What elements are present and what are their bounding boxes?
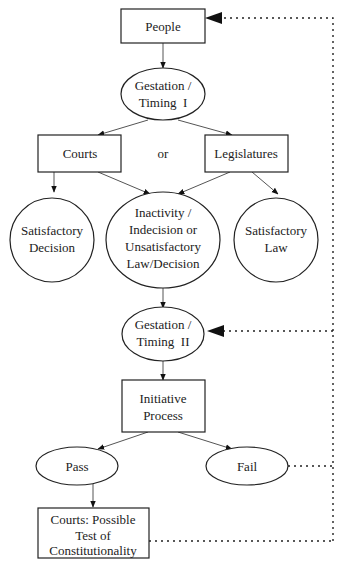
- label-gestation1-l2: Timing I: [139, 95, 188, 110]
- edge-gestation1-legislatures: [178, 120, 232, 135]
- label-legislatures: Legislatures: [214, 146, 278, 161]
- label-satlaw-l1: Satisfactory: [245, 223, 308, 238]
- label-satdecision-l2: Decision: [29, 240, 76, 255]
- label-fail: Fail: [237, 459, 258, 474]
- label-inactivity-l3: Unsatisfactory: [125, 239, 201, 254]
- label-initiative-l2: Process: [143, 408, 183, 423]
- label-gestation2-l1: Gestation /: [135, 317, 192, 332]
- arrowhead-people: [205, 12, 222, 24]
- label-gestation1-l1: Gestation /: [135, 78, 192, 93]
- label-satlaw-l2: Law: [264, 240, 288, 255]
- node-initiative: [122, 380, 205, 432]
- arrowhead-gestation2: [207, 325, 224, 337]
- edge-initiative-fail: [178, 432, 232, 449]
- label-gestation2-l2: Timing II: [137, 334, 190, 349]
- label-courtstest-l2: Test of: [75, 528, 111, 543]
- label-people: People: [145, 19, 181, 34]
- label-courtstest-l1: Courts: Possible: [51, 512, 136, 527]
- edge-courts-inactivity: [98, 172, 150, 194]
- label-inactivity-l4: Law/Decision: [127, 256, 200, 271]
- label-initiative-l1: Initiative: [140, 391, 187, 406]
- label-pass: Pass: [65, 459, 88, 474]
- flowchart: People Gestation / Timing I Courts or Le…: [0, 0, 347, 573]
- node-gestation1: [121, 68, 205, 120]
- label-inactivity-l2: Indecision or: [129, 222, 198, 237]
- edge-legislatures-satlaw: [252, 172, 278, 194]
- label-courtstest-l3: Constitutionality: [49, 543, 137, 558]
- label-courts: Courts: [63, 146, 98, 161]
- label-satdecision-l1: Satisfactory: [21, 223, 84, 238]
- edge-initiative-pass: [98, 432, 148, 449]
- label-inactivity-l1: Inactivity /: [135, 205, 192, 220]
- edge-gestation1-courts: [98, 120, 148, 135]
- label-or: or: [158, 146, 170, 161]
- edge-legislatures-inactivity: [178, 172, 230, 194]
